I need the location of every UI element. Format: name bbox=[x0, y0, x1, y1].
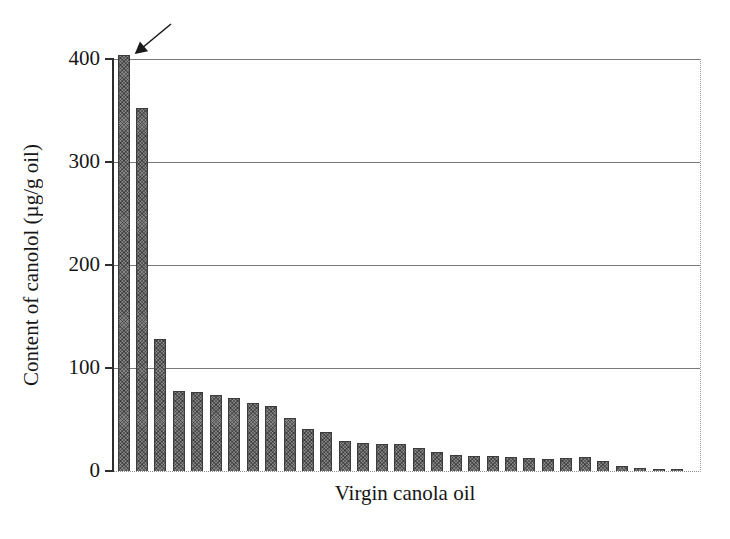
bar bbox=[523, 458, 535, 471]
bar bbox=[320, 432, 332, 471]
plot-area: 0100200300400 bbox=[112, 59, 701, 472]
gridline-100 bbox=[114, 368, 700, 369]
y-tick-300 bbox=[105, 161, 114, 163]
y-tick-label-300: 300 bbox=[40, 151, 100, 172]
y-tick-label-400: 400 bbox=[40, 48, 100, 69]
bar bbox=[487, 456, 499, 471]
bar bbox=[450, 455, 462, 471]
bar bbox=[357, 443, 369, 471]
bar bbox=[579, 457, 591, 471]
bar bbox=[191, 392, 203, 471]
x-axis-label: Virgin canola oil bbox=[112, 481, 698, 506]
bar bbox=[376, 444, 388, 471]
y-tick-label-100: 100 bbox=[40, 357, 100, 378]
gridline-400 bbox=[114, 59, 700, 60]
y-tick-200 bbox=[105, 264, 114, 266]
y-tick-400 bbox=[105, 58, 114, 60]
bar bbox=[468, 456, 480, 471]
gridline-200 bbox=[114, 265, 700, 266]
bar bbox=[394, 444, 406, 471]
bar bbox=[542, 459, 554, 471]
bar bbox=[210, 395, 222, 471]
bar bbox=[247, 403, 259, 471]
y-tick-label-200: 200 bbox=[40, 254, 100, 275]
figure: Content of canolol (µg/g oil) 0100200300… bbox=[0, 0, 730, 539]
bar bbox=[339, 441, 351, 471]
y-tick-label-0: 0 bbox=[40, 460, 100, 481]
bar bbox=[136, 108, 148, 471]
bar bbox=[173, 391, 185, 471]
y-tick-0 bbox=[105, 470, 114, 472]
bar bbox=[228, 398, 240, 471]
bar bbox=[431, 452, 443, 471]
bar bbox=[154, 339, 166, 471]
gridline-300 bbox=[114, 162, 700, 163]
bar bbox=[653, 469, 665, 471]
bar bbox=[671, 469, 683, 471]
bar bbox=[634, 468, 646, 471]
bar bbox=[302, 429, 314, 471]
bar bbox=[505, 457, 517, 471]
bar bbox=[265, 406, 277, 471]
bar bbox=[284, 418, 296, 471]
bar bbox=[597, 461, 609, 471]
bar bbox=[616, 466, 628, 471]
bar bbox=[413, 448, 425, 471]
bar bbox=[560, 458, 572, 471]
bar bbox=[118, 55, 130, 471]
y-tick-100 bbox=[105, 367, 114, 369]
